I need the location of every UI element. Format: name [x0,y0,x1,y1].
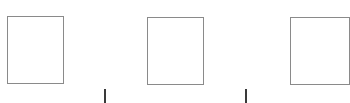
empty-box-3 [290,17,350,85]
separator-tick-1 [104,89,106,103]
empty-box-2 [147,17,204,85]
separator-tick-2 [245,89,247,103]
empty-box-1 [7,16,64,84]
